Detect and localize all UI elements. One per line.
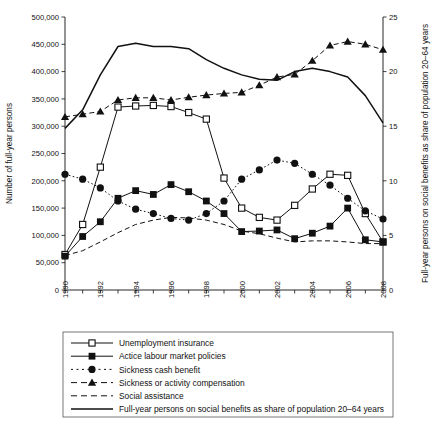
y2-axis-tick-label: 0 (389, 286, 393, 295)
legend-entry-5[interactable]: Social assistance (71, 391, 184, 401)
marker-filled-circle (273, 156, 280, 163)
marker-open-square (292, 202, 298, 208)
series-line (65, 185, 383, 257)
marker-filled-circle (132, 206, 139, 213)
marker-filled-circle (114, 197, 121, 204)
marker-filled-square (238, 228, 245, 235)
y-axis-tick-label: 0 (55, 286, 59, 295)
marker-filled-square (327, 223, 334, 230)
marker-filled-circle (362, 207, 369, 214)
legend-entry-3[interactable]: Sickness cash benefit (71, 365, 201, 375)
y2-axis-tick-label: 5 (389, 231, 393, 240)
marker-filled-triangle (185, 93, 193, 100)
x-axis-tick-label: 1996 (167, 281, 176, 298)
marker-open-square (168, 103, 174, 109)
marker-open-square (80, 221, 86, 227)
marker-open-square (150, 102, 156, 108)
marker-filled-square (309, 230, 316, 237)
marker-open-square (97, 164, 103, 170)
marker-filled-triangle (96, 107, 104, 114)
marker-filled-square (221, 210, 228, 217)
marker-filled-square (89, 353, 96, 360)
marker-filled-circle (61, 171, 68, 178)
x-axis-tick-label: 2004 (308, 281, 317, 298)
marker-open-square (345, 172, 351, 178)
marker-filled-triangle (149, 94, 157, 101)
marker-open-square (133, 103, 139, 109)
marker-filled-square (62, 253, 69, 260)
marker-filled-circle (238, 176, 245, 183)
y2-axis-tick-label: 10 (389, 177, 397, 186)
marker-open-square (256, 214, 262, 220)
marker-filled-circle (79, 176, 86, 183)
legend-entry-1[interactable]: Unemployment insurance (71, 338, 214, 348)
marker-open-square (186, 109, 192, 115)
y2-axis-tick-label: 20 (389, 67, 397, 76)
marker-open-square (221, 175, 227, 181)
y-axis-tick-label: 300,000 (32, 122, 59, 131)
line-chart: 050,000100,000150,000200,000250,000300,0… (0, 0, 434, 436)
y2-axis-tick-label: 15 (389, 122, 397, 131)
marker-filled-circle (309, 171, 316, 178)
marker-filled-square (168, 181, 175, 188)
series-6 (65, 43, 383, 128)
marker-filled-square (79, 233, 86, 240)
legend-entry-2[interactable]: Actice labour market policies (71, 351, 226, 361)
y-axis-title: Number of full-year persons (5, 103, 14, 204)
marker-open-square (239, 205, 245, 211)
y-axis-tick-label: 200,000 (32, 177, 59, 186)
legend-label: Sickness cash benefit (119, 365, 201, 375)
y2-axis-tick-label: 25 (389, 13, 397, 22)
x-axis-tick-label: 2000 (238, 281, 247, 298)
series-line (65, 43, 383, 128)
marker-filled-circle (326, 182, 333, 189)
marker-filled-circle (291, 160, 298, 167)
legend-entry-6[interactable]: Full-year persons on social benefits as … (71, 404, 384, 414)
marker-open-square (274, 217, 280, 223)
series-1 (62, 102, 386, 257)
y-axis-tick-label: 500,000 (32, 13, 59, 22)
marker-filled-triangle (326, 41, 334, 48)
legend-label: Full-year persons on social benefits as … (119, 404, 384, 414)
marker-filled-circle (97, 184, 104, 191)
legend-entry-4[interactable]: Sickness or activity compensation (71, 378, 245, 388)
marker-filled-square (132, 187, 139, 194)
marker-filled-triangle (255, 81, 263, 88)
marker-filled-square (185, 188, 192, 195)
y-axis-tick-label: 100,000 (32, 231, 59, 240)
y2-axis-title: Full-year persons on social benefits as … (421, 24, 430, 283)
marker-filled-square (344, 205, 351, 212)
series-2 (62, 181, 387, 259)
marker-filled-square (274, 227, 281, 234)
marker-filled-circle (344, 195, 351, 202)
y-axis-tick-label: 250,000 (32, 149, 59, 158)
y-axis-tick-label: 150,000 (32, 204, 59, 213)
x-axis-tick-label: 1990 (61, 281, 70, 298)
marker-filled-square (203, 198, 210, 205)
legend-label: Unemployment insurance (119, 338, 214, 348)
x-axis-tick-label: 2002 (273, 281, 282, 298)
series-5 (65, 217, 383, 255)
marker-filled-circle (167, 215, 174, 222)
x-axis-tick-label: 2008 (379, 281, 388, 298)
marker-filled-triangle (379, 46, 387, 53)
series-line (65, 42, 383, 117)
marker-filled-square (380, 239, 387, 246)
marker-filled-circle (88, 366, 95, 373)
marker-filled-square (362, 236, 369, 243)
legend-label: Social assistance (119, 391, 184, 401)
marker-open-square (115, 104, 121, 110)
x-axis-tick-label: 1992 (96, 281, 105, 298)
series-4 (61, 38, 387, 120)
x-axis-tick-label: 1994 (132, 281, 141, 298)
y-axis-tick-label: 350,000 (32, 95, 59, 104)
legend-label: Actice labour market policies (119, 351, 226, 361)
marker-filled-circle (220, 197, 227, 204)
marker-filled-circle (150, 210, 157, 217)
marker-filled-circle (203, 210, 210, 217)
marker-filled-circle (379, 215, 386, 222)
x-axis-tick-label: 2006 (344, 281, 353, 298)
marker-open-square (89, 340, 95, 346)
y-axis-tick-label: 400,000 (32, 67, 59, 76)
marker-open-square (327, 171, 333, 177)
